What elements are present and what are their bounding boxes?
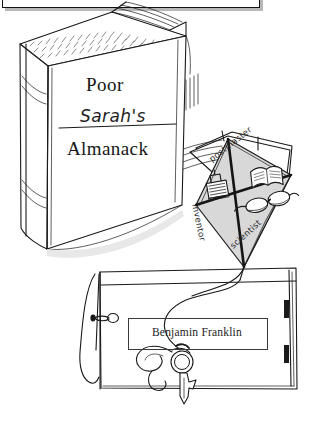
book-title-line-1: Poor [86, 74, 124, 96]
line-art-drawing: .ln { fill:none; stroke:#1a1a1a; stroke-… [0, 0, 314, 434]
book-title-line-2: Sarah's [80, 106, 146, 126]
caption-text: Benjamin Franklin [152, 326, 242, 338]
illustration-canvas: .ln { fill:none; stroke:#1a1a1a; stroke-… [0, 0, 314, 434]
book-title-line-3: Almanack [67, 138, 148, 160]
